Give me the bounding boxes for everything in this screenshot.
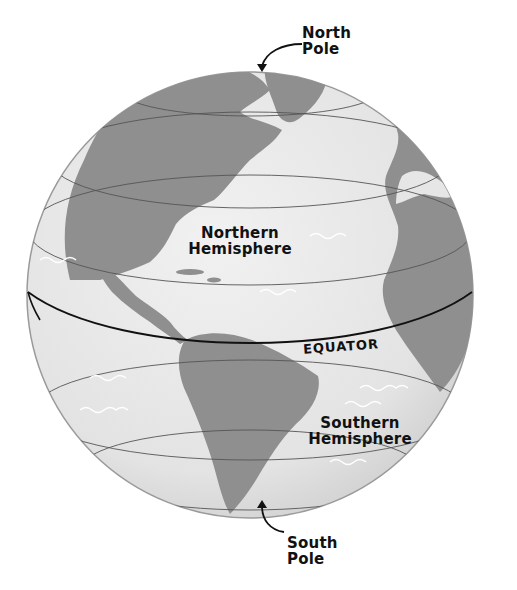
northern-hemisphere-label: Northern Hemisphere (180, 226, 300, 258)
cuba-island (176, 269, 204, 275)
north-pole-arrow (262, 44, 302, 66)
north-pole-arrowhead (257, 64, 267, 72)
globe-graphic (0, 0, 517, 590)
arctic-circle-inner (220, 54, 280, 70)
hispaniola-island (207, 278, 221, 283)
south-pole-label: South Pole (287, 536, 338, 568)
southern-hemisphere-label: Southern Hemisphere (300, 416, 420, 448)
globe-diagram: North Pole Northern Hemisphere EQUATOR S… (0, 0, 517, 590)
north-pole-label: North Pole (302, 26, 351, 58)
